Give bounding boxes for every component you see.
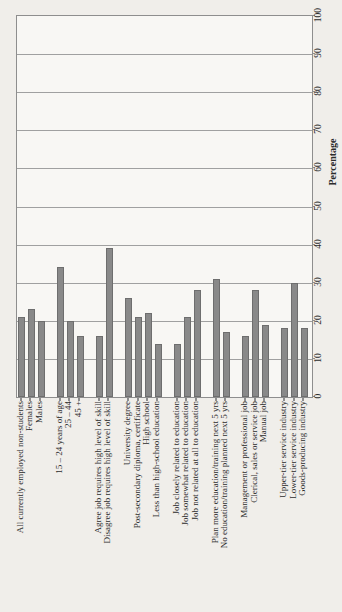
value-tick-label: 50 — [313, 194, 323, 218]
bar — [135, 317, 142, 397]
bar — [301, 328, 308, 397]
gridline — [17, 245, 312, 246]
bar — [262, 325, 269, 397]
category-label: Less than high-school education — [151, 401, 162, 607]
bar — [38, 321, 45, 397]
bar — [145, 313, 152, 397]
value-tick-label: 20 — [313, 308, 323, 332]
bar — [125, 298, 132, 397]
bar — [242, 336, 249, 397]
bar — [174, 344, 181, 397]
value-tick-label: 0 — [313, 384, 323, 408]
value-tick-label: 10 — [313, 346, 323, 370]
bar — [155, 344, 162, 397]
bar — [96, 336, 103, 397]
bar — [18, 317, 25, 397]
gridline — [17, 54, 312, 55]
value-tick-label: 90 — [313, 41, 323, 65]
value-tick-label: 80 — [313, 79, 323, 103]
value-axis-title: Percentage — [326, 117, 339, 207]
category-label: No education/training planned next 5 yrs — [219, 401, 230, 607]
bar — [223, 332, 230, 397]
bar — [281, 328, 288, 397]
value-tick-label: 30 — [313, 270, 323, 294]
bar — [106, 248, 113, 397]
category-label: 45 + — [73, 401, 84, 607]
category-label: Manual job — [258, 401, 269, 607]
gridline — [17, 130, 312, 131]
chart-figure: Percentage 0102030405060708090100All cur… — [0, 0, 342, 612]
bar — [28, 309, 35, 397]
category-label: Job not related at all to education — [190, 401, 201, 607]
bar — [194, 290, 201, 397]
gridline — [17, 168, 312, 169]
bar — [291, 283, 298, 397]
category-label: Males — [34, 401, 45, 607]
gridline — [17, 92, 312, 93]
bar — [67, 321, 74, 397]
bar — [252, 290, 259, 397]
bar — [57, 267, 64, 397]
category-label: Goods-producing industry — [297, 401, 308, 607]
value-tick-label: 40 — [313, 232, 323, 256]
gridline — [17, 207, 312, 208]
bar — [77, 336, 84, 397]
bar — [184, 317, 191, 397]
value-tick-label: 100 — [313, 3, 323, 27]
value-tick-label: 70 — [313, 117, 323, 141]
plot-area — [16, 15, 313, 398]
value-tick-label: 60 — [313, 155, 323, 179]
bar — [213, 279, 220, 397]
category-label: Disagree job requires high level of skil… — [102, 401, 113, 607]
